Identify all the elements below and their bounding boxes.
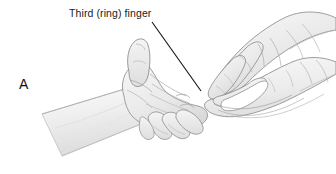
hand-examination-illustration [0, 0, 336, 174]
panel-letter: A [19, 76, 28, 92]
callout-label-third-ring-finger: Third (ring) finger [69, 7, 151, 20]
figure-panel: Third (ring) finger A [0, 0, 336, 174]
